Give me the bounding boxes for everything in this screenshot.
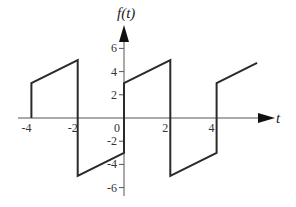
axes [18,25,275,196]
x-axis-label: t [276,110,281,126]
x-tick-label: -2 [68,121,78,135]
x-tick-label: 0 [114,121,120,135]
x-axis-arrow-icon [258,113,275,123]
chart: 642-2-4-6-4-2024 f(t) t [0,0,296,207]
x-tick-label: 4 [209,121,215,135]
y-tick-label: -2 [107,134,117,148]
x-tick-label: -4 [21,121,31,135]
y-tick-label: 4 [111,65,117,79]
y-tick-label: 6 [111,41,117,55]
y-tick-label: 2 [111,88,117,102]
y-axis-label: f(t) [117,5,135,22]
y-axis-arrow-icon [119,25,129,42]
x-tick-label: 2 [162,121,168,135]
y-tick-label: -6 [107,181,117,195]
